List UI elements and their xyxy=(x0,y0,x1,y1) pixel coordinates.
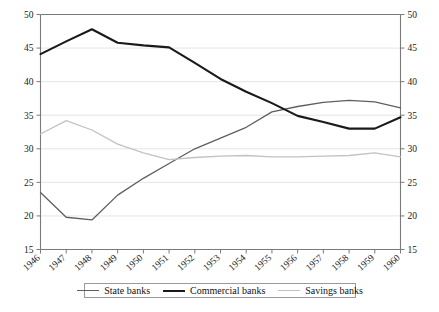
series-line-state-banks xyxy=(41,100,401,220)
y-axis-left-label-25: 25 xyxy=(24,178,34,188)
y-axis-left-ticks xyxy=(37,15,41,250)
x-axis-label-1946: 1946 xyxy=(21,252,42,272)
x-axis-label-1947: 1947 xyxy=(47,252,68,272)
x-axis-label-1957: 1957 xyxy=(304,252,325,272)
x-axis-label-1951: 1951 xyxy=(150,252,171,272)
chart-legend: State banksCommercial banksSavings banks xyxy=(84,283,356,298)
legend-item-savings-banks[interactable]: Savings banks xyxy=(278,286,363,296)
chart-plot-svg: 1520253035404550 1520253035404550 194619… xyxy=(0,0,439,312)
y-axis-left-label-45: 45 xyxy=(24,43,34,53)
legend-label: Commercial banks xyxy=(190,286,265,296)
y-axis-right-label-25: 25 xyxy=(408,178,418,188)
x-axis-label-1950: 1950 xyxy=(124,252,145,272)
y-axis-left-label-20: 20 xyxy=(24,211,34,221)
x-axis-ticks xyxy=(41,250,401,254)
x-axis-label-1954: 1954 xyxy=(227,252,248,272)
y-axis-left-label-35: 35 xyxy=(24,111,34,121)
y-axis-right-label-40: 40 xyxy=(408,77,418,87)
x-axis-label-1958: 1958 xyxy=(330,252,351,272)
legend-swatch-icon xyxy=(278,290,300,291)
series-line-commercial-banks xyxy=(41,29,401,128)
y-axis-right-label-45: 45 xyxy=(408,43,418,53)
line-chart: 1520253035404550 1520253035404550 194619… xyxy=(0,0,439,312)
series-line-savings-banks xyxy=(41,121,401,160)
x-axis-label-1956: 1956 xyxy=(278,252,299,272)
x-axis-label-1948: 1948 xyxy=(72,252,93,272)
data-series-group xyxy=(41,29,401,220)
y-axis-right-ticks xyxy=(401,15,405,250)
y-axis-right-label-50: 50 xyxy=(408,10,418,20)
legend-swatch-icon xyxy=(77,290,99,291)
y-axis-right-label-15: 15 xyxy=(408,245,418,255)
x-axis-label-1955: 1955 xyxy=(252,252,273,272)
y-axis-right-labels: 1520253035404550 xyxy=(408,10,418,255)
x-axis-label-1952: 1952 xyxy=(175,252,196,272)
legend-item-state-banks[interactable]: State banks xyxy=(77,286,150,296)
x-axis-label-1953: 1953 xyxy=(201,252,222,272)
y-axis-left-labels: 1520253035404550 xyxy=(24,10,34,255)
legend-label: Savings banks xyxy=(305,286,363,296)
x-axis-label-1949: 1949 xyxy=(98,252,119,272)
legend-label: State banks xyxy=(104,286,150,296)
y-axis-right-label-20: 20 xyxy=(408,211,418,221)
legend-item-commercial-banks[interactable]: Commercial banks xyxy=(163,286,265,296)
y-axis-left-label-15: 15 xyxy=(24,245,34,255)
x-axis-label-1959: 1959 xyxy=(355,252,376,272)
x-axis-labels: 1946194719481949195019511952195319541955… xyxy=(21,252,402,272)
y-axis-left-label-40: 40 xyxy=(24,77,34,87)
legend-swatch-icon xyxy=(163,290,185,292)
y-axis-left-label-30: 30 xyxy=(24,144,34,154)
y-axis-right-label-35: 35 xyxy=(408,111,418,121)
y-axis-left-label-50: 50 xyxy=(24,10,34,20)
y-axis-right-label-30: 30 xyxy=(408,144,418,154)
x-axis-label-1960: 1960 xyxy=(381,252,402,272)
